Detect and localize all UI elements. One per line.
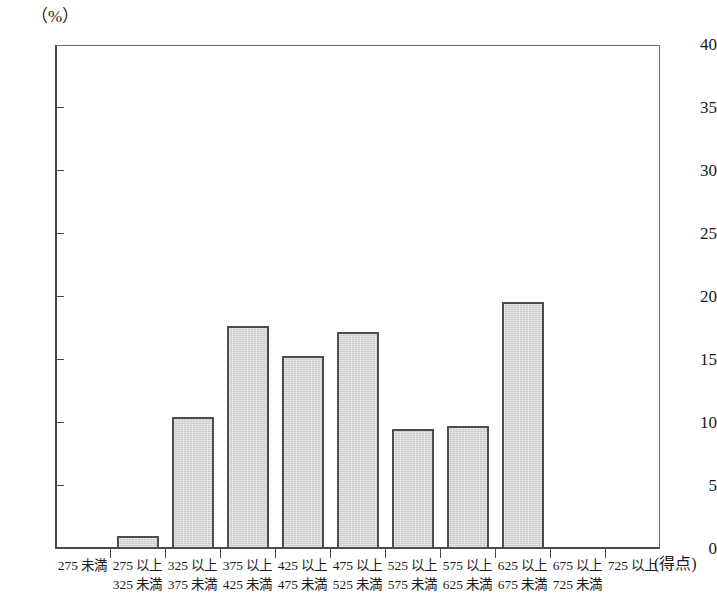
bar (447, 426, 489, 549)
bar (282, 356, 324, 549)
x-axis-label-line: 675 未満 (495, 575, 550, 594)
x-axis-label: 475 以上525 未満 (330, 556, 385, 594)
x-axis-label: 325 以上375 未満 (165, 556, 220, 594)
x-axis-label-line: 525 以上 (385, 556, 440, 575)
x-axis-label: 525 以上575 未満 (385, 556, 440, 594)
bar (392, 429, 434, 549)
x-axis-label-line: 525 未満 (330, 575, 385, 594)
x-axis-label-line: 575 以上 (440, 556, 495, 575)
x-axis-label-line: 575 未満 (385, 575, 440, 594)
x-axis-label-line: 625 未満 (440, 575, 495, 594)
x-axis-label-line: 725 未満 (550, 575, 605, 594)
bar (502, 302, 544, 549)
y-axis-label: 10 (671, 414, 717, 431)
x-axis-label: 625 以上675 未満 (495, 556, 550, 594)
y-axis-label: 25 (671, 225, 717, 242)
x-axis-label-line: 425 未満 (220, 575, 275, 594)
x-axis-label-line: 375 以上 (220, 556, 275, 575)
y-axis-label: 35 (671, 99, 717, 116)
bar (117, 536, 159, 549)
x-axis-label: 375 以上425 未満 (220, 556, 275, 594)
x-axis-label: 575 以上625 未満 (440, 556, 495, 594)
x-axis-label-line: 275 以上 (110, 556, 165, 575)
x-axis-label-line: 475 未満 (275, 575, 330, 594)
x-axis-label-line: 675 以上 (550, 556, 605, 575)
y-axis-label: 5 (671, 477, 717, 494)
x-axis-label-line: 425 以上 (275, 556, 330, 575)
bars-container (55, 45, 660, 549)
y-axis-label: 15 (671, 351, 717, 368)
y-axis-unit-label: （%） (31, 8, 79, 25)
y-axis-label: 20 (671, 288, 717, 305)
bar (227, 326, 269, 549)
y-axis-label: 40 (671, 36, 717, 53)
x-axis-label: 725 以上 (605, 556, 660, 575)
x-axis-label-line: 725 以上 (605, 556, 660, 575)
x-axis-label-line: 475 以上 (330, 556, 385, 575)
x-axis-label-line: 625 以上 (495, 556, 550, 575)
x-axis-unit-label: (得点) (654, 554, 697, 574)
x-axis-label-line: 325 未満 (110, 575, 165, 594)
x-axis-label-line: 275 未満 (55, 556, 110, 575)
x-axis-label: 275 以上325 未満 (110, 556, 165, 594)
x-axis-label: 675 以上725 未満 (550, 556, 605, 594)
bar (172, 417, 214, 549)
x-axis-label-line: 375 未満 (165, 575, 220, 594)
bar-chart: （%） 0510152025303540 275 未満275 以上325 未満3… (0, 0, 717, 606)
x-axis-label: 275 未満 (55, 556, 110, 575)
cut-off-caption (300, 0, 700, 4)
x-axis-label: 425 以上475 未満 (275, 556, 330, 594)
bar (337, 332, 379, 549)
y-axis-label: 30 (671, 162, 717, 179)
x-axis-label-line: 325 以上 (165, 556, 220, 575)
